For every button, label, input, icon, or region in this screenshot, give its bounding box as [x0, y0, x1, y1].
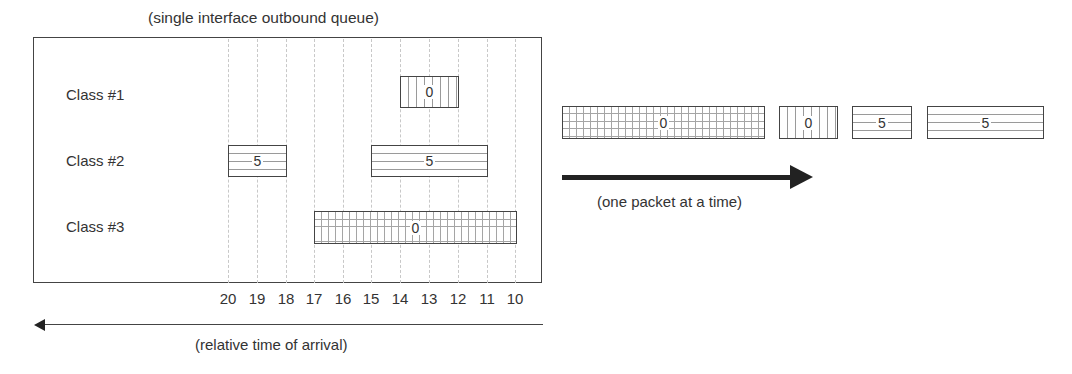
tick-label: 13: [417, 290, 441, 307]
class-2-packet-a: 5: [228, 145, 287, 177]
output-packet-3: 5: [852, 106, 912, 139]
packet-value: 5: [424, 154, 436, 168]
queue-title: (single interface outbound queue): [148, 9, 379, 27]
class-1-label: Class #1: [66, 86, 124, 103]
output-packet-1: 0: [562, 106, 765, 139]
tick-label: 15: [359, 290, 383, 307]
time-axis-label: (relative time of arrival): [195, 336, 348, 353]
packet-value: 0: [803, 116, 815, 130]
tick-label: 10: [503, 290, 527, 307]
tick-label: 14: [388, 290, 412, 307]
tick-label: 16: [331, 290, 355, 307]
packet-value: 0: [424, 85, 436, 99]
class-3-label: Class #3: [66, 218, 124, 235]
output-packet-4: 5: [927, 106, 1044, 139]
output-packet-2: 0: [779, 106, 838, 139]
gridline-17: [314, 39, 315, 283]
tick-label: 20: [216, 290, 240, 307]
output-label: (one packet at a time): [597, 193, 742, 210]
packet-value: 5: [876, 116, 888, 130]
tick-label: 19: [245, 290, 269, 307]
tick-label: 17: [302, 290, 326, 307]
gridline-16: [343, 39, 344, 283]
packet-value: 5: [252, 154, 264, 168]
packet-value: 5: [980, 116, 992, 130]
tick-label: 11: [475, 290, 499, 307]
class-2-label: Class #2: [66, 152, 124, 169]
packet-value: 0: [410, 221, 422, 235]
output-arrow-line: [562, 175, 794, 180]
tick-label: 18: [274, 290, 298, 307]
arrow-left-icon: [34, 319, 45, 331]
class-3-packet: 0: [314, 211, 517, 244]
tick-label: 12: [446, 290, 470, 307]
gridline-10: [515, 39, 516, 283]
packet-value: 0: [658, 116, 670, 130]
class-2-packet-b: 5: [371, 145, 488, 177]
class-1-packet: 0: [400, 76, 459, 108]
time-axis-line: [44, 324, 543, 325]
arrow-right-icon: [790, 165, 813, 189]
